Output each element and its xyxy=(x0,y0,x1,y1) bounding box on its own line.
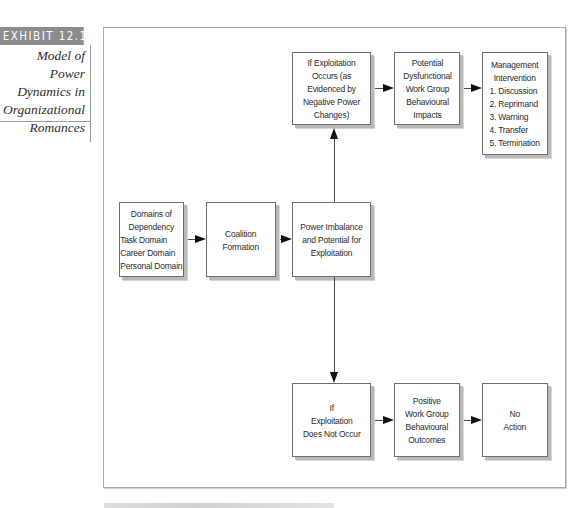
box-text-line: 3. Warning xyxy=(490,110,540,123)
arrow-down-icon xyxy=(330,372,338,383)
exhibit-label: EXHIBIT 12.1 xyxy=(0,27,84,45)
exhibit-title-line: Romances xyxy=(0,119,85,137)
arrow-right-icon xyxy=(383,84,394,92)
box-text-line: Changes) xyxy=(303,108,360,121)
box-text-line: Action xyxy=(504,420,526,433)
box-text-line: Potential xyxy=(403,56,451,69)
source-note-cutoff xyxy=(104,503,334,508)
box-text-line: Positive xyxy=(405,394,449,407)
box-text-line: Dependency xyxy=(120,220,182,233)
arrow-right-icon xyxy=(471,84,482,92)
box-text-line: No xyxy=(504,407,526,420)
box-text-line: 4. Transfer xyxy=(490,123,540,136)
box-text-line: Does Not Occur xyxy=(303,427,361,440)
box-text-line: Occurs (as xyxy=(303,69,360,82)
box-power-imbalance: Power Imbalance and Potential for Exploi… xyxy=(292,202,371,277)
arrow-right-icon xyxy=(383,416,394,424)
box-positive-outcomes: Positive Work Group Behavioural Outcomes xyxy=(394,383,460,457)
box-dysfunctional-impacts: Potential Dysfunctional Work Group Behav… xyxy=(394,52,460,125)
box-text-line: Negative Power xyxy=(303,95,360,108)
box-exploitation-occurs: If Exploitation Occurs (as Evidenced by … xyxy=(292,52,371,125)
exhibit-title-line: Dynamics in xyxy=(0,83,85,101)
box-domains-of-dependency: Domains of Dependency Task Domain Career… xyxy=(119,202,184,277)
box-exploitation-does-not-occur: If Exploitation Does Not Occur xyxy=(292,383,371,457)
box-management-intervention: Management Intervention 1. Discussion 2.… xyxy=(482,52,548,155)
box-text-line: Behavioural xyxy=(403,95,451,108)
exhibit-title: Model of Power Dynamics in Organizationa… xyxy=(0,47,85,137)
box-text-line: Impacts xyxy=(403,108,451,121)
box-text-line: Outcomes xyxy=(405,433,449,446)
box-text-line: If xyxy=(303,401,361,414)
box-text-line: 2. Reprimand xyxy=(490,97,540,110)
arrow-up-icon xyxy=(330,128,338,139)
box-text-line: Work Group xyxy=(405,407,449,420)
box-coalition-formation: Coalition Formation xyxy=(206,202,276,277)
box-text-line: Behavioural xyxy=(405,420,449,433)
box-text-line: Evidenced by xyxy=(303,82,360,95)
exhibit-title-panel: Model of Power Dynamics in Organizationa… xyxy=(0,45,91,122)
box-text-line: 5. Termination xyxy=(490,136,540,149)
box-text-line: Dysfunctional xyxy=(403,69,451,82)
box-text-line: Personal Domain xyxy=(120,259,182,272)
box-text-line: 1. Discussion xyxy=(490,84,540,97)
box-text-line: Task Domain xyxy=(120,233,182,246)
box-no-action: No Action xyxy=(482,383,548,457)
box-text-line: Work Group xyxy=(403,82,451,95)
box-text-line: and Potential for xyxy=(300,233,363,246)
edge-line xyxy=(334,133,335,202)
arrow-right-icon xyxy=(281,235,292,243)
box-text-line: Exploitation xyxy=(300,246,363,259)
box-text-line: Intervention xyxy=(490,71,540,84)
box-text-line: Career Domain xyxy=(120,246,182,259)
box-text-line: Management xyxy=(490,58,540,71)
edge-line xyxy=(334,277,335,372)
box-text-line: Domains of xyxy=(120,207,182,220)
arrow-right-icon xyxy=(195,235,206,243)
box-text-line: Formation xyxy=(223,240,259,253)
exhibit-divider xyxy=(90,122,91,142)
exhibit-title-line: Model of Power xyxy=(0,47,85,83)
box-text-line: Power Imbalance xyxy=(300,220,363,233)
box-text-line: Coalition xyxy=(223,227,259,240)
box-text-line: If Exploitation xyxy=(303,56,360,69)
exhibit-title-line: Organizational xyxy=(0,101,85,119)
arrow-right-icon xyxy=(471,416,482,424)
box-text-line: Exploitation xyxy=(303,414,361,427)
